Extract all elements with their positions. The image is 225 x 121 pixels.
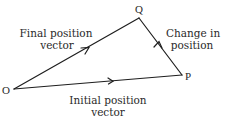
point-label-q: Q	[135, 3, 143, 15]
final-position-label-line1: Final position	[16, 27, 96, 39]
initial-position-label-line1: Initial position	[66, 94, 150, 106]
change-in-position-label: Change in position	[166, 27, 218, 51]
initial-position-label-line2: vector	[66, 106, 150, 118]
initial-position-vector-line	[14, 75, 182, 89]
initial-position-label: Initial position vector	[66, 94, 150, 118]
vector-diagram: O Q P Final position vector Change in po…	[0, 0, 225, 121]
change-in-position-label-line1: Change in	[166, 27, 218, 39]
change-in-position-label-line2: position	[166, 39, 218, 51]
final-position-label-line2: vector	[16, 39, 96, 51]
point-label-o: O	[2, 84, 10, 96]
point-label-p: P	[185, 70, 191, 82]
final-position-label: Final position vector	[16, 27, 96, 51]
